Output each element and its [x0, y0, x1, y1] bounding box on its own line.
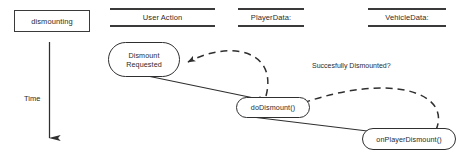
node-do-dismount[interactable]: doDismount() [236, 97, 310, 118]
time-axis-label: Time [24, 95, 40, 103]
node-label-line1: doDismount() [251, 103, 295, 112]
node-label-line2: Requested [126, 60, 162, 69]
node-on-player-dismount[interactable]: onPlayerDismount() [362, 128, 456, 150]
edge-label-successfully-dismounted: Succesfully Dismounted? [312, 62, 391, 69]
node-dismount-requested[interactable]: Dismount Requested [108, 42, 180, 77]
node-label-line1: Dismount [128, 51, 159, 60]
sequence-diagram-canvas: dismounting User Action PlayerData: Vehi… [0, 0, 462, 162]
edge-do-to-req [188, 51, 268, 96]
edge-on-to-do [300, 88, 439, 130]
node-label-line1: onPlayerDismount() [376, 135, 441, 144]
